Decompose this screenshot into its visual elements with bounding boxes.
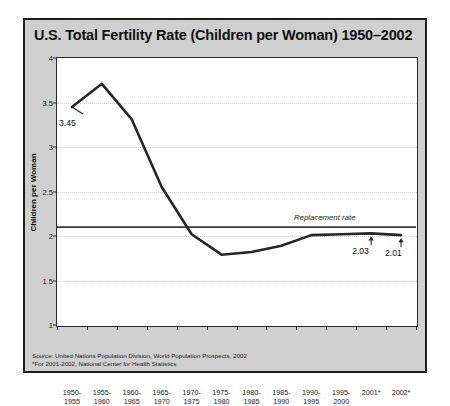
x-tick-label-line1: 1950- bbox=[63, 388, 81, 397]
x-tick-label: 1955-1960 bbox=[93, 388, 111, 406]
x-tick-mark bbox=[386, 326, 387, 330]
x-tick-label-line2: 1975 bbox=[182, 397, 200, 406]
x-tick-label-line2: 1990 bbox=[272, 397, 290, 406]
data-label-1950: 3.45 bbox=[59, 118, 76, 128]
x-tick-label: 1950-1955 bbox=[63, 388, 81, 406]
plot-inner: 11.522.533.54 Replacement rate 3.45 2.03… bbox=[57, 58, 417, 326]
x-tick-label: 1960-1965 bbox=[123, 388, 141, 406]
y-axis-title-label: Children per Woman bbox=[29, 153, 38, 231]
x-tick-label: 1970-1975 bbox=[182, 388, 200, 406]
x-tick-label: 2001* bbox=[362, 388, 381, 397]
data-label-2002: 2.01 bbox=[385, 248, 402, 258]
x-tick-mark bbox=[177, 326, 178, 330]
x-tick-mark bbox=[356, 326, 357, 330]
x-tick-label-line1: 1995- bbox=[332, 388, 350, 397]
x-tick-label-line2: 1960 bbox=[93, 397, 111, 406]
x-tick-mark bbox=[57, 326, 58, 330]
annotation-leader-lines bbox=[72, 107, 404, 247]
chart-title: U.S. Total Fertility Rate (Children per … bbox=[34, 27, 418, 43]
x-tick-label-line2: 2000 bbox=[332, 397, 350, 406]
data-label-2001: 2.03 bbox=[352, 246, 369, 256]
annotation-leader bbox=[72, 107, 83, 114]
x-tick-label-line2: 1955 bbox=[63, 397, 81, 406]
x-tick-mark bbox=[207, 326, 208, 330]
x-tick-label: 1980-1985 bbox=[242, 388, 260, 406]
source-note: Source: United Nations Population Divisi… bbox=[32, 352, 247, 368]
x-tick-label-line1: 1985- bbox=[272, 388, 290, 397]
x-tick-label-line2: 1995 bbox=[302, 397, 320, 406]
x-tick-mark bbox=[147, 326, 148, 330]
x-tick-label-line1: 1960- bbox=[123, 388, 141, 397]
x-tick-mark bbox=[117, 326, 118, 330]
x-tick-label-line1: 1955- bbox=[93, 388, 111, 397]
source-line-2: *For 2001-2002, National Center for Heal… bbox=[32, 360, 247, 368]
y-tick-label: 2.5 bbox=[43, 187, 53, 196]
x-tick-label: 2002* bbox=[392, 388, 411, 397]
x-tick-mark bbox=[326, 326, 327, 330]
x-tick-label-line2: 1970 bbox=[153, 397, 171, 406]
source-line-1: Source: United Nations Population Divisi… bbox=[32, 352, 247, 360]
y-tick-label: 1.5 bbox=[43, 276, 53, 285]
x-tick-label-line2: 1965 bbox=[123, 397, 141, 406]
x-tick-label-line2: 1985 bbox=[242, 397, 260, 406]
x-tick-label-line1: 1990- bbox=[302, 388, 320, 397]
x-tick-label-line1: 1975- bbox=[212, 388, 230, 397]
x-tick-label: 1975-1980 bbox=[212, 388, 230, 406]
x-tick-label: 1995-2000 bbox=[332, 388, 350, 406]
x-tick-label: 1985-1990 bbox=[272, 388, 290, 406]
fertility-rate-line bbox=[72, 84, 401, 255]
x-tick-label-line2: 1980 bbox=[212, 397, 230, 406]
x-tick-label-line1: 1965- bbox=[153, 388, 171, 397]
x-tick-mark bbox=[87, 326, 88, 330]
x-tick-mark bbox=[416, 326, 417, 330]
x-tick-label: 1990-1995 bbox=[302, 388, 320, 406]
y-tick-label: 3.5 bbox=[43, 98, 53, 107]
x-tick-mark bbox=[266, 326, 267, 330]
y-axis-title: Children per Woman bbox=[27, 57, 39, 327]
plot-area: 11.522.533.54 Replacement rate 3.45 2.03… bbox=[56, 57, 418, 327]
x-tick-label-line1: 2001* bbox=[362, 388, 381, 397]
fertility-rate-line-series bbox=[57, 58, 416, 325]
x-tick-mark bbox=[296, 326, 297, 330]
x-tick-label-line1: 1970- bbox=[182, 388, 200, 397]
replacement-rate-label: Replacement rate bbox=[294, 213, 356, 222]
x-tick-mark bbox=[237, 326, 238, 330]
x-tick-label: 1965-1970 bbox=[153, 388, 171, 406]
x-tick-label-line1: 2002* bbox=[392, 388, 411, 397]
x-tick-label-line1: 1980- bbox=[242, 388, 260, 397]
